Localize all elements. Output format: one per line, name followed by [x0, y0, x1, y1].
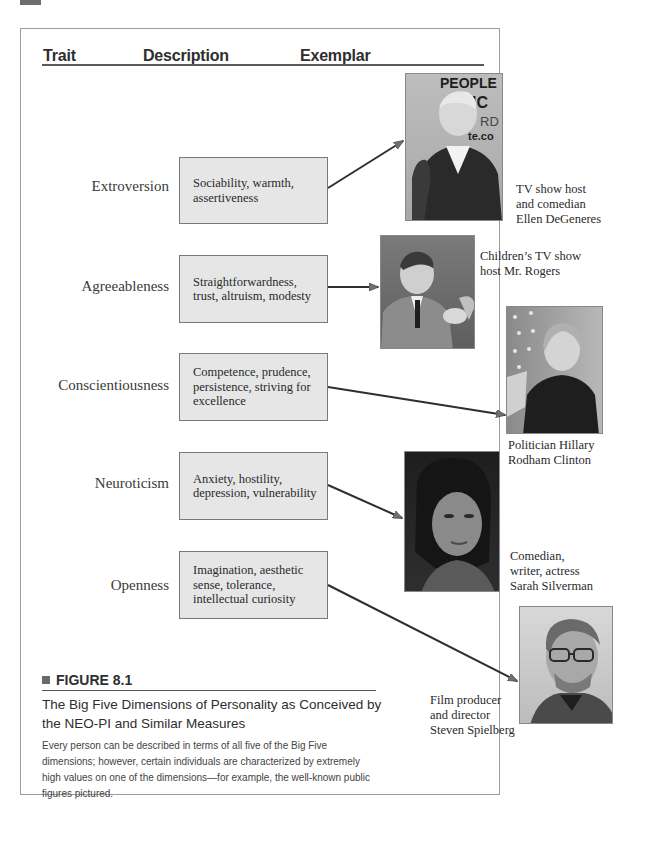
portrait-silhouette-icon: PEOPLE IC RD te.co	[406, 74, 503, 221]
exemplar-caption-conscientiousness: Politician Hillary Rodham Clinton	[508, 438, 594, 468]
portrait-silhouette-icon	[405, 452, 500, 592]
trait-neuroticism: Neuroticism	[95, 475, 169, 492]
trait-openness: Openness	[111, 577, 169, 594]
svg-text:PEOPLE: PEOPLE	[440, 75, 497, 91]
exemplar-caption-agreeableness: Children’s TV show host Mr. Rogers	[480, 249, 581, 279]
exemplar-caption-openness: Film producer and director Steven Spielb…	[430, 693, 515, 738]
description-text: Anxiety, hostility, depression, vulnerab…	[193, 472, 319, 501]
figure-label: FIGURE 8.1	[42, 672, 132, 688]
description-box-extroversion: Sociability, warmth, assertiveness	[179, 157, 328, 224]
header-rule	[42, 64, 484, 66]
svg-text:te.co: te.co	[468, 130, 494, 142]
trait-agreeableness: Agreeableness	[82, 278, 169, 295]
portrait-silhouette-icon	[520, 607, 613, 724]
description-text: Imagination, aesthetic sense, tolerance,…	[193, 563, 311, 607]
figure-rule	[42, 690, 376, 691]
figure-description: Every person can be described in terms o…	[42, 738, 372, 802]
description-box-conscientiousness: Competence, prudence, persistence, striv…	[179, 353, 328, 421]
portrait-hillary-clinton	[506, 306, 603, 434]
portrait-steven-spielberg	[519, 606, 613, 724]
exemplar-caption-neuroticism: Comedian, writer, actress Sarah Silverma…	[510, 549, 593, 594]
column-header-exemplar: Exemplar	[300, 47, 370, 65]
column-header-description: Description	[143, 47, 229, 65]
exemplar-caption-extroversion: TV show host and comedian Ellen DeGenere…	[516, 182, 601, 227]
trait-extroversion: Extroversion	[92, 178, 169, 195]
trait-conscientiousness: Conscientiousness	[58, 377, 169, 394]
portrait-ellen-degeneres: PEOPLE IC RD te.co	[405, 73, 503, 221]
svg-text:RD: RD	[480, 114, 499, 129]
column-header-trait: Trait	[43, 47, 76, 65]
description-text: Competence, prudence, persistence, striv…	[193, 365, 319, 409]
description-box-agreeableness: Straightforwardness, trust, altruism, mo…	[179, 255, 328, 323]
portrait-silhouette-icon	[381, 236, 475, 349]
page-number-tab	[20, 0, 41, 5]
figure-bullet-icon	[42, 676, 50, 684]
portrait-mr-rogers	[380, 235, 475, 349]
portrait-sarah-silverman	[404, 451, 500, 592]
portrait-silhouette-icon	[507, 307, 603, 434]
figure-label-text: FIGURE 8.1	[56, 672, 132, 688]
figure-title: The Big Five Dimensions of Personality a…	[42, 695, 382, 733]
description-text: Sociability, warmth, assertiveness	[193, 176, 311, 205]
description-box-neuroticism: Anxiety, hostility, depression, vulnerab…	[179, 452, 328, 520]
description-box-openness: Imagination, aesthetic sense, tolerance,…	[179, 551, 328, 619]
description-text: Straightforwardness, trust, altruism, mo…	[193, 275, 319, 304]
